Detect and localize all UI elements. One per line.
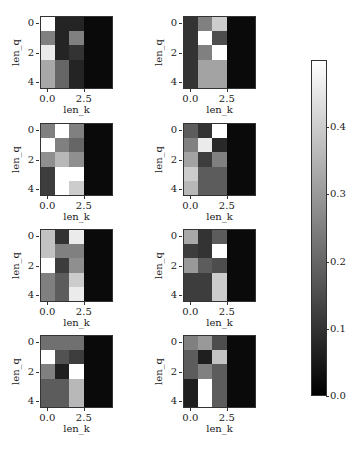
- colorbar: [311, 60, 327, 396]
- heatmap-cell: [184, 244, 198, 258]
- heatmap-cell: [41, 60, 55, 74]
- heatmap-cell: [198, 124, 212, 138]
- heatmap-cell: [69, 124, 83, 138]
- heatmap-cell: [84, 124, 98, 138]
- heatmap-cell: [41, 364, 55, 378]
- heatmap-cell: [227, 393, 241, 407]
- heatmap-cell: [227, 138, 241, 152]
- heatmap-cell: [98, 393, 112, 407]
- heatmap-cell: [227, 230, 241, 244]
- heatmap-cell: [198, 74, 212, 88]
- x-tick-label: 0.0: [178, 413, 202, 423]
- heatmap-cell: [84, 138, 98, 152]
- heatmap-cell: [69, 45, 83, 59]
- y-tick-label: 0: [165, 337, 177, 347]
- heatmap-cell: [241, 31, 255, 45]
- heatmap-cell: [69, 379, 83, 393]
- x-tick-mark: [84, 196, 85, 199]
- heatmap-cell: [98, 31, 112, 45]
- heatmap-cell: [212, 336, 226, 350]
- heatmap-cell: [227, 152, 241, 166]
- heatmap-cell: [84, 152, 98, 166]
- heatmap-cell: [69, 17, 83, 31]
- heatmap-cell: [55, 379, 69, 393]
- heatmap-cell: [98, 138, 112, 152]
- heatmap-cell: [98, 60, 112, 74]
- heatmap-cell: [198, 45, 212, 59]
- heatmap-cell: [41, 31, 55, 45]
- x-tick-label: 2.5: [72, 94, 96, 104]
- x-tick-mark: [47, 302, 48, 305]
- heatmap-cell: [241, 364, 255, 378]
- heatmap-cell: [84, 393, 98, 407]
- y-tick-label: 4: [165, 77, 177, 87]
- heatmap-cell: [41, 17, 55, 31]
- heatmap-cell: [84, 273, 98, 287]
- heatmap-cell: [41, 244, 55, 258]
- y-axis-label: len_q: [10, 351, 21, 391]
- heatmap-cell: [212, 258, 226, 272]
- x-tick-mark: [84, 408, 85, 411]
- heatmap-cell: [212, 379, 226, 393]
- x-tick-mark: [227, 302, 228, 305]
- heatmap-cell: [212, 17, 226, 31]
- heatmap-cell: [55, 60, 69, 74]
- y-tick-label: 0: [22, 125, 34, 135]
- x-tick-label: 0.0: [178, 94, 202, 104]
- heatmap-cell: [184, 393, 198, 407]
- heatmap-cell: [241, 181, 255, 195]
- x-axis-label: len_k: [57, 317, 97, 328]
- heatmap-cell: [69, 336, 83, 350]
- heatmap-cell: [198, 287, 212, 301]
- heatmap-cell: [241, 17, 255, 31]
- heatmap-cell: [84, 181, 98, 195]
- heatmap-cell: [227, 273, 241, 287]
- heatmap-cell: [98, 258, 112, 272]
- heatmap-cell: [212, 124, 226, 138]
- y-tick-label: 2: [165, 155, 177, 165]
- y-tick-label: 4: [22, 77, 34, 87]
- heatmap-cell: [84, 31, 98, 45]
- heatmap-cell: [69, 74, 83, 88]
- x-tick-label: 0.0: [35, 94, 59, 104]
- heatmap-cell: [212, 350, 226, 364]
- y-tick-label: 2: [22, 261, 34, 271]
- y-tick-label: 0: [22, 337, 34, 347]
- heatmap-cell: [69, 230, 83, 244]
- y-tick-label: 2: [22, 155, 34, 165]
- heatmap-cell: [55, 31, 69, 45]
- heatmap-cell: [69, 244, 83, 258]
- y-tick-label: 4: [165, 396, 177, 406]
- heatmap-cell: [84, 364, 98, 378]
- y-axis-label: len_q: [10, 245, 21, 285]
- x-tick-label: 2.5: [215, 307, 239, 317]
- heatmap-cell: [84, 258, 98, 272]
- x-tick-mark: [227, 89, 228, 92]
- heatmap-cell: [241, 244, 255, 258]
- heatmap-cell: [98, 167, 112, 181]
- heatmap-cell: [198, 393, 212, 407]
- heatmap-cell: [98, 364, 112, 378]
- heatmap-cell: [241, 287, 255, 301]
- x-tick-label: 2.5: [215, 201, 239, 211]
- x-axis-label: len_k: [200, 104, 240, 115]
- y-tick-label: 4: [22, 396, 34, 406]
- y-tick-label: 4: [165, 184, 177, 194]
- y-tick-label: 4: [22, 290, 34, 300]
- heatmap-cell: [198, 60, 212, 74]
- x-tick-mark: [227, 196, 228, 199]
- heatmap-cell: [198, 379, 212, 393]
- heatmap-cell: [55, 258, 69, 272]
- heatmap-cell: [55, 74, 69, 88]
- heatmap-cell: [227, 244, 241, 258]
- heatmap-cell: [184, 258, 198, 272]
- heatmap-cell: [227, 124, 241, 138]
- heatmap-cell: [41, 74, 55, 88]
- heatmap-cell: [41, 258, 55, 272]
- heatmap-cell: [55, 45, 69, 59]
- heatmap-cell: [98, 273, 112, 287]
- heatmap-panel: [40, 16, 113, 89]
- x-tick-label: 0.0: [178, 307, 202, 317]
- y-axis-label: len_q: [153, 32, 164, 72]
- heatmap-cell: [227, 60, 241, 74]
